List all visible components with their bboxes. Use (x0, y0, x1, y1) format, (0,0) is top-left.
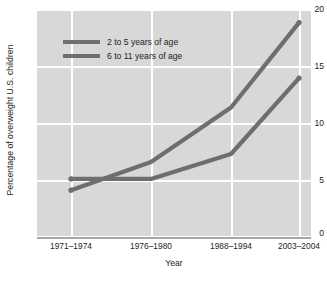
chart-legend: 2 to 5 years of age 6 to 11 years of age (63, 35, 182, 63)
x-axis-line (37, 237, 311, 239)
x-tick-label-2003-2004: 2003–2004 (278, 241, 320, 251)
chart-figure: Percentage of overweight U.S. children 2… (0, 0, 327, 284)
legend-label-2-to-5: 2 to 5 years of age (107, 37, 178, 47)
y-axis-title: Percentage of overweight U.S. children (0, 0, 20, 240)
legend-label-6-to-11: 6 to 11 years of age (107, 51, 182, 61)
legend-item-2-to-5: 2 to 5 years of age (63, 35, 182, 49)
point-6-to-11-years-of-age-2003–2004 (296, 20, 301, 25)
x-tick-label-1971-1974: 1971–1974 (50, 241, 92, 251)
legend-line-swatch-icon (63, 54, 100, 58)
legend-line-swatch-icon (63, 40, 100, 44)
x-axis-title: Year (37, 258, 311, 268)
y-axis-title-text: Percentage of overweight U.S. children (5, 45, 15, 196)
x-tick-label-1988-1994: 1988–1994 (210, 241, 252, 251)
point-2-to-5-years-of-age-2003–2004 (296, 76, 301, 81)
point-6-to-11-years-of-age-1971–1974 (68, 188, 73, 193)
plot-area: 2 to 5 years of age 6 to 11 years of age (37, 9, 311, 237)
point-2-to-5-years-of-age-1971–1974 (68, 176, 73, 181)
legend-item-6-to-11: 6 to 11 years of age (63, 49, 182, 63)
x-tick-label-1976-1980: 1976–1980 (130, 241, 172, 251)
line-series-2-to-5 (71, 78, 299, 179)
